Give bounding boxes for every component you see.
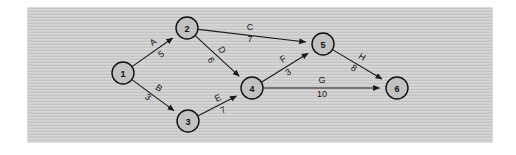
diagram-panel	[28, 8, 492, 142]
figure-root: A5B3C7D6E7F3G10H8 123456	[0, 0, 516, 155]
